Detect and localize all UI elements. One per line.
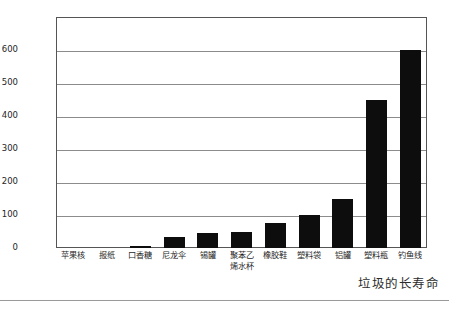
gridline-200 <box>57 183 426 184</box>
y-tick-label-100: 100 <box>0 210 22 219</box>
x-tick-label: 锡罐 <box>191 250 225 271</box>
x-tick-label: 口香糖 <box>123 250 157 271</box>
y-tick-label-600: 600 <box>0 45 22 54</box>
y-tick-label-500: 500 <box>0 78 22 87</box>
figure-caption: 垃圾的长寿命 <box>358 276 439 292</box>
y-tick-label-200: 200 <box>0 177 22 186</box>
x-tick-label: 塑料袋 <box>292 250 326 271</box>
gridline-400 <box>57 117 426 118</box>
x-tick-label: 橡胶鞋 <box>258 250 292 271</box>
x-tick-label: 尼龙伞 <box>157 250 191 271</box>
bottom-divider <box>0 300 449 301</box>
garbage-lifespan-bar-chart: 存在时间/年 6005004003002001000 苹果核报纸口香糖尼龙伞锡罐… <box>0 0 449 309</box>
y-tick-label-400: 400 <box>0 111 22 120</box>
gridline-100 <box>57 216 426 217</box>
y-tick-label-0: 0 <box>0 243 22 252</box>
x-tick-label: 铝罐 <box>326 250 360 271</box>
x-tick-label: 塑料瓶 <box>360 250 394 271</box>
x-tick-label: 钓鱼线 <box>393 250 427 271</box>
plot-area <box>56 17 427 248</box>
x-tick-label: 聚苯乙烯水杯 <box>225 250 259 271</box>
gridline-500 <box>57 84 426 85</box>
x-tick-label: 苹果核 <box>56 250 90 271</box>
y-tick-label-300: 300 <box>0 144 22 153</box>
x-axis-tick-labels: 苹果核报纸口香糖尼龙伞锡罐聚苯乙烯水杯橡胶鞋塑料袋铝罐塑料瓶钓鱼线 <box>56 250 427 271</box>
x-tick-label: 报纸 <box>90 250 124 271</box>
gridline-300 <box>57 150 426 151</box>
gridline-600 <box>57 51 426 52</box>
